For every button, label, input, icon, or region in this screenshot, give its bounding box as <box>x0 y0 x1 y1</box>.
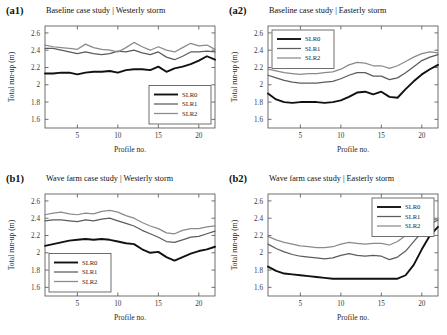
y-tick-label-b2-5: 2.6 <box>254 198 263 206</box>
legend-label-a2-SLR0: SLR0 <box>305 35 321 42</box>
legend-label-b1-SLR0: SLR0 <box>82 259 98 266</box>
legend-b2: SLR0SLR1SLR2 <box>372 198 434 237</box>
y-tick-label-a2-2: 2 <box>259 81 263 89</box>
panel-a2-chart: (a2)Baseline case study | Easterly storm… <box>223 0 446 167</box>
x-tick-label-a2-0: 5 <box>299 132 303 140</box>
x-tick-label-a1-1: 10 <box>114 132 122 140</box>
series-line-a2-SLR0 <box>268 65 438 103</box>
panel-title-b2: Wave farm case study | Easterly storm <box>269 174 395 183</box>
y-tick-label-b1-5: 2.6 <box>31 198 40 206</box>
legend-box-b1 <box>49 254 111 293</box>
y-tick-label-b1-3: 2.2 <box>31 232 40 240</box>
y-tick-label-a2-1: 1.8 <box>254 99 263 107</box>
y-tick-label-a1-4: 2.4 <box>31 47 40 55</box>
y-axis-title-a1: Total run-up (m) <box>7 51 16 102</box>
x-axis-title-a1: Profile no. <box>114 145 146 154</box>
y-tick-label-a2-3: 2.2 <box>254 64 263 72</box>
y-tick-label-a1-3: 2.2 <box>31 64 40 72</box>
x-tick-label-b1-0: 5 <box>76 300 80 308</box>
legend-label-b2-SLR0: SLR0 <box>405 203 421 210</box>
series-line-b1-SLR1 <box>45 218 215 242</box>
legend-label-a1-SLR2: SLR2 <box>182 110 197 117</box>
panel-tag-a2: (a2) <box>229 5 247 17</box>
y-tick-label-b2-0: 1.6 <box>254 284 263 292</box>
x-tick-label-a1-2: 15 <box>155 132 163 140</box>
series-line-b1-SLR2 <box>45 210 215 233</box>
legend-label-a1-SLR1: SLR1 <box>182 100 197 107</box>
x-tick-label-b1-3: 20 <box>195 300 203 308</box>
legend-label-a2-SLR2: SLR2 <box>305 54 320 61</box>
legend-box-a2 <box>272 30 334 69</box>
y-axis-title-b1: Total run-up (m) <box>7 219 16 270</box>
panel-a1: (a1)Baseline case study | Westerly storm… <box>0 0 223 167</box>
series-line-a1-SLR1 <box>45 48 215 59</box>
panel-b2: (b2)Wave farm case study | Easterly stor… <box>223 168 446 335</box>
legend-a1: SLR0SLR1SLR2 <box>149 86 211 125</box>
y-tick-label-b1-4: 2.4 <box>31 215 40 223</box>
legend-box-a1 <box>149 86 211 125</box>
y-tick-label-a1-0: 1.6 <box>31 116 40 124</box>
y-tick-label-b1-2: 2 <box>36 249 40 257</box>
panel-title-a1: Baseline case study | Westerly storm <box>46 6 166 15</box>
y-tick-label-a1-1: 1.8 <box>31 99 40 107</box>
legend-label-a1-SLR0: SLR0 <box>182 91 198 98</box>
panel-tag-b2: (b2) <box>229 173 248 185</box>
y-axis-title-b2: Total run-up (m) <box>230 219 239 270</box>
x-tick-label-a1-0: 5 <box>76 132 80 140</box>
legend-label-b2-SLR1: SLR1 <box>405 213 420 220</box>
y-tick-label-b2-2: 2 <box>259 249 263 257</box>
panel-tag-b1: (b1) <box>6 173 25 185</box>
legend-a2: SLR0SLR1SLR2 <box>272 30 334 69</box>
x-tick-label-a2-3: 20 <box>418 132 426 140</box>
x-axis-title-b1: Profile no. <box>114 313 146 322</box>
legend-label-b1-SLR2: SLR2 <box>82 278 97 285</box>
panel-tag-a1: (a1) <box>6 5 24 17</box>
x-tick-label-a2-2: 15 <box>378 132 386 140</box>
x-tick-label-b2-0: 5 <box>299 300 303 308</box>
panel-title-a2: Baseline case study | Easterly storm <box>269 6 387 15</box>
y-tick-label-b1-1: 1.8 <box>31 267 40 275</box>
legend-box-b2 <box>372 198 434 237</box>
x-tick-label-b2-1: 10 <box>337 300 345 308</box>
y-tick-label-b2-1: 1.8 <box>254 267 263 275</box>
legend-b1: SLR0SLR1SLR2 <box>49 254 111 293</box>
x-tick-label-a2-1: 10 <box>337 132 345 140</box>
y-tick-label-a2-0: 1.6 <box>254 116 263 124</box>
x-tick-label-b1-1: 10 <box>114 300 122 308</box>
y-tick-label-a2-5: 2.6 <box>254 30 263 38</box>
figure-root: (a1)Baseline case study | Westerly storm… <box>0 0 447 335</box>
panel-b2-chart: (b2)Wave farm case study | Easterly stor… <box>223 168 446 335</box>
panel-b1-chart: (b1)Wave farm case study | Westerly stor… <box>0 168 223 335</box>
y-tick-label-a1-5: 2.6 <box>31 30 40 38</box>
y-tick-label-b1-0: 1.6 <box>31 284 40 292</box>
panel-a1-chart: (a1)Baseline case study | Westerly storm… <box>0 0 223 167</box>
x-tick-label-b2-2: 15 <box>378 300 386 308</box>
legend-label-b1-SLR1: SLR1 <box>82 268 97 275</box>
legend-label-b2-SLR2: SLR2 <box>405 222 420 229</box>
y-tick-label-b2-3: 2.2 <box>254 232 263 240</box>
panel-a2: (a2)Baseline case study | Easterly storm… <box>223 0 446 167</box>
legend-label-a2-SLR1: SLR1 <box>305 45 320 52</box>
y-axis-title-a2: Total run-up (m) <box>230 51 239 102</box>
x-axis-title-a2: Profile no. <box>337 145 369 154</box>
x-tick-label-b2-3: 20 <box>418 300 426 308</box>
series-line-a1-SLR0 <box>45 56 215 74</box>
y-tick-label-a2-4: 2.4 <box>254 47 263 55</box>
y-tick-label-a1-2: 2 <box>36 81 40 89</box>
x-axis-title-b2: Profile no. <box>337 313 369 322</box>
x-tick-label-b1-2: 15 <box>155 300 163 308</box>
panel-b1: (b1)Wave farm case study | Westerly stor… <box>0 168 223 335</box>
y-tick-label-b2-4: 2.4 <box>254 215 263 223</box>
x-tick-label-a1-3: 20 <box>195 132 203 140</box>
panel-title-b1: Wave farm case study | Westerly storm <box>46 174 174 183</box>
